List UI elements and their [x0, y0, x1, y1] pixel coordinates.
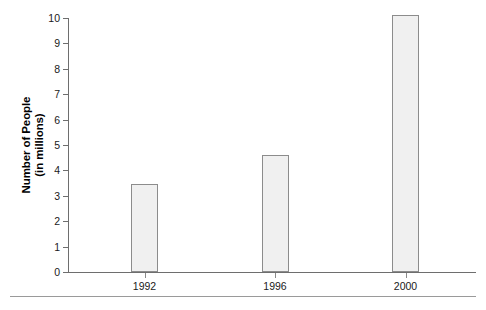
- y-tick-mark: [63, 170, 68, 171]
- y-tick-label-text: 5: [38, 140, 60, 150]
- y-tick-label-text: 2: [38, 216, 60, 226]
- y-tick-mark: [63, 94, 68, 95]
- y-tick-label: 10: [36, 13, 60, 23]
- y-tick-mark: [63, 120, 68, 121]
- y-tick-label: 0: [36, 267, 60, 277]
- y-tick-label-text: 10: [38, 13, 60, 23]
- y-axis-line: [68, 18, 69, 273]
- x-tick-mark: [275, 273, 276, 278]
- y-tick-label: 5: [36, 140, 60, 150]
- y-tick-mark: [63, 196, 68, 197]
- x-tick-label-2000: 2000: [376, 280, 436, 292]
- y-tick-mark: [63, 43, 68, 44]
- y-tick-mark: [63, 18, 68, 19]
- bar-1996: [262, 155, 289, 272]
- y-tick-label: 2: [36, 216, 60, 226]
- y-tick-label: 7: [36, 89, 60, 99]
- y-tick-mark: [63, 221, 68, 222]
- x-tick-mark: [406, 273, 407, 278]
- y-axis-title-line-1: Number of People: [20, 97, 34, 194]
- y-tick-label-text: 4: [38, 165, 60, 175]
- y-tick-label: 8: [36, 64, 60, 74]
- y-tick-label-text: 6: [38, 115, 60, 125]
- y-tick-mark: [63, 272, 68, 273]
- y-tick-mark: [63, 247, 68, 248]
- y-tick-label: 9: [36, 38, 60, 48]
- y-tick-mark: [63, 69, 68, 70]
- y-tick-label-text: 9: [38, 38, 60, 48]
- x-axis-line: [68, 272, 476, 273]
- y-tick-label-text: 7: [38, 89, 60, 99]
- bar-2000: [392, 15, 419, 272]
- bottom-divider: [10, 296, 476, 297]
- y-tick-label-text: 3: [38, 191, 60, 201]
- x-tick-label-1992: 1992: [115, 280, 175, 292]
- x-tick-mark: [145, 273, 146, 278]
- y-tick-label-text: 8: [38, 64, 60, 74]
- y-tick-label-text: 1: [38, 242, 60, 252]
- bar-chart: Number of People (in millions) 012345678…: [0, 0, 486, 310]
- y-tick-label: 4: [36, 165, 60, 175]
- y-tick-label: 3: [36, 191, 60, 201]
- y-tick-mark: [63, 145, 68, 146]
- y-tick-label: 1: [36, 242, 60, 252]
- x-tick-label-1996: 1996: [245, 280, 305, 292]
- bar-1992: [131, 184, 158, 272]
- y-tick-label-text: 0: [38, 267, 60, 277]
- y-tick-label: 6: [36, 115, 60, 125]
